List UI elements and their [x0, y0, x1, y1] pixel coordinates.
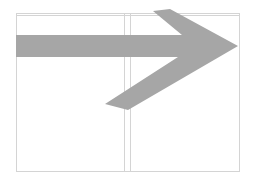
- diagram-canvas: [0, 0, 254, 184]
- right-arrow-icon: [16, 9, 238, 110]
